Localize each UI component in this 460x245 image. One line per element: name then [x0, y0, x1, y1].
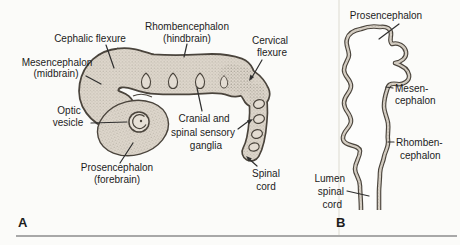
label-mesencephalon-b-1: Mesen- — [395, 83, 428, 94]
label-lumen-1: Lumen — [314, 173, 345, 184]
label-mesencephalon-b-2: cephalon — [395, 95, 436, 106]
label-optic-vesicle-2: vesicle — [53, 117, 84, 128]
label-optic-vesicle-1: Optic — [57, 105, 80, 116]
label-mesencephalon-1: Mesencephalon — [22, 57, 93, 68]
label-rhombencephalon-1: Rhombencephalon — [145, 21, 229, 32]
flexure-crease — [133, 94, 152, 97]
label-cervical-flexure-1: Cervical — [252, 35, 288, 46]
label-rhombencephalon-b-2: cephalon — [400, 150, 441, 161]
panel-a-letter: A — [18, 215, 28, 230]
label-prosencephalon-1: Prosencephalon — [81, 162, 153, 173]
label-rhombencephalon-b-1: Rhomben- — [396, 137, 443, 148]
label-ganglia-3: ganglia — [190, 140, 223, 151]
label-prosencephalon-2: (forebrain) — [94, 174, 140, 185]
panel-b-letter: B — [336, 215, 345, 230]
label-spinal-cord-2: cord — [256, 181, 275, 192]
label-mesencephalon-2: (midbrain) — [33, 68, 78, 79]
figure-canvas: Cephalic flexure Rhombencephalon (hindbr… — [0, 0, 460, 245]
label-prosencephalon-b: Prosencephalon — [350, 10, 422, 21]
label-spinal-cord-1: Spinal — [252, 168, 280, 179]
label-lumen-2: spinal — [318, 186, 344, 197]
label-rhombencephalon-2: (hindbrain) — [163, 33, 211, 44]
optic-vesicle-dot — [140, 120, 142, 122]
label-lumen-3: cord — [323, 199, 342, 210]
label-ganglia-2: spinal sensory — [171, 127, 235, 138]
embryo-brain-figure: Cephalic flexure Rhombencephalon (hindbr… — [0, 0, 460, 245]
label-cephalic-flexure: Cephalic flexure — [54, 33, 126, 44]
neural-tube-wall-outline — [343, 27, 409, 210]
label-cervical-flexure-2: flexure — [257, 47, 287, 58]
panel-b-drawing — [343, 27, 409, 210]
label-ganglia-1: Cranial and — [178, 113, 229, 124]
